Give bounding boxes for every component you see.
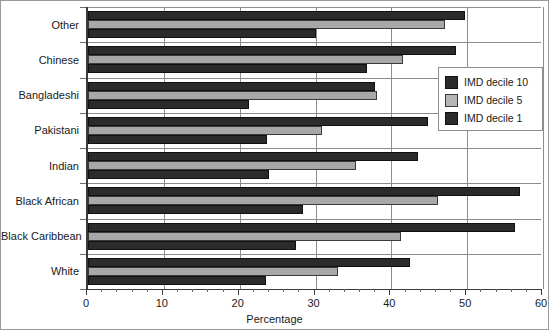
x-axis-minor-tick <box>480 289 481 292</box>
x-axis-minor-tick <box>526 289 527 292</box>
bar <box>88 161 356 170</box>
x-axis-minor-tick <box>207 289 208 292</box>
bar <box>88 11 465 20</box>
x-axis-minor-tick <box>496 289 497 292</box>
bar <box>88 82 375 91</box>
y-axis-tick <box>80 78 86 79</box>
y-axis-tick <box>80 219 86 220</box>
chart-legend: IMD decile 10 IMD decile 5 IMD decile 1 <box>438 67 543 131</box>
bar <box>88 241 296 250</box>
bar-chart: OtherChineseBangladeshiPakistaniIndianBl… <box>0 0 549 330</box>
y-axis-tick <box>80 42 86 43</box>
x-axis-minor-tick <box>435 289 436 292</box>
bar <box>88 170 269 179</box>
legend-swatch-icon <box>445 76 458 89</box>
bar <box>88 196 438 205</box>
bar <box>88 126 322 135</box>
group-separator <box>88 219 541 220</box>
x-axis-minor-tick <box>283 289 284 292</box>
x-axis-major-tick <box>238 289 239 295</box>
bar <box>88 91 377 100</box>
x-axis-tick-label: 20 <box>232 297 244 309</box>
bar <box>88 64 367 73</box>
y-axis-tick <box>80 183 86 184</box>
bar <box>88 276 266 285</box>
y-axis-category-label: Black African <box>1 195 79 207</box>
legend-item-imd-decile-10: IMD decile 10 <box>445 73 536 91</box>
legend-swatch-icon <box>445 94 458 107</box>
x-axis-minor-tick <box>420 289 421 292</box>
y-axis-category-label: Indian <box>1 160 79 172</box>
group-separator <box>88 148 541 149</box>
bar <box>88 20 445 29</box>
x-axis-tick-label: 60 <box>535 297 547 309</box>
y-axis-tick <box>80 254 86 255</box>
x-axis-major-tick <box>86 289 87 295</box>
y-axis-category-label: Chinese <box>1 54 79 66</box>
x-axis-tick-label: 30 <box>307 297 319 309</box>
legend-swatch-icon <box>445 112 458 125</box>
x-axis-minor-tick <box>359 289 360 292</box>
legend-label: IMD decile 1 <box>464 112 522 124</box>
group-separator <box>88 254 541 255</box>
bar <box>88 55 403 64</box>
x-axis-minor-tick <box>223 289 224 292</box>
x-axis-tick-label: 50 <box>459 297 471 309</box>
gridline <box>543 7 544 289</box>
bar <box>88 117 428 126</box>
x-axis-minor-tick <box>298 289 299 292</box>
x-axis-major-tick <box>465 289 466 295</box>
bar <box>88 267 338 276</box>
y-axis-category-label: White <box>1 265 79 277</box>
bar <box>88 223 515 232</box>
x-axis-minor-tick <box>511 289 512 292</box>
plot-area <box>86 7 541 289</box>
y-axis-tick <box>80 148 86 149</box>
x-axis-minor-tick <box>132 289 133 292</box>
x-axis-tick-label: 40 <box>383 297 395 309</box>
x-axis-minor-tick <box>147 289 148 292</box>
legend-item-imd-decile-1: IMD decile 1 <box>445 109 536 127</box>
bar <box>88 152 418 161</box>
x-axis-title: Percentage <box>1 313 548 325</box>
group-separator <box>88 7 541 8</box>
x-axis-minor-tick <box>253 289 254 292</box>
x-axis-major-tick <box>389 289 390 295</box>
x-axis-major-tick <box>541 289 542 295</box>
x-axis-minor-tick <box>101 289 102 292</box>
x-axis-minor-tick <box>329 289 330 292</box>
x-axis-major-tick <box>162 289 163 295</box>
bar <box>88 29 316 38</box>
bar <box>88 187 520 196</box>
x-axis-tick-label: 10 <box>156 297 168 309</box>
bar <box>88 135 267 144</box>
bar <box>88 232 401 241</box>
x-axis-minor-tick <box>405 289 406 292</box>
legend-label: IMD decile 10 <box>464 76 528 88</box>
x-axis-minor-tick <box>374 289 375 292</box>
y-axis-category-label: Bangladeshi <box>1 89 79 101</box>
x-axis-minor-tick <box>177 289 178 292</box>
y-axis-category-label: Other <box>1 19 79 31</box>
y-axis-tick <box>80 113 86 114</box>
group-separator <box>88 42 541 43</box>
x-axis-minor-tick <box>116 289 117 292</box>
bar <box>88 100 249 109</box>
x-axis-minor-tick <box>344 289 345 292</box>
bar <box>88 46 456 55</box>
bar <box>88 205 303 214</box>
x-axis-minor-tick <box>268 289 269 292</box>
legend-item-imd-decile-5: IMD decile 5 <box>445 91 536 109</box>
y-axis-category-label: Black Caribbean <box>1 230 79 242</box>
bar <box>88 258 410 267</box>
legend-label: IMD decile 5 <box>464 94 522 106</box>
x-axis-tick-label: 0 <box>83 297 89 309</box>
group-separator <box>88 183 541 184</box>
y-axis-tick <box>80 7 86 8</box>
x-axis-major-tick <box>314 289 315 295</box>
x-axis-minor-tick <box>192 289 193 292</box>
y-axis-category-label: Pakistani <box>1 124 79 136</box>
x-axis-minor-tick <box>450 289 451 292</box>
